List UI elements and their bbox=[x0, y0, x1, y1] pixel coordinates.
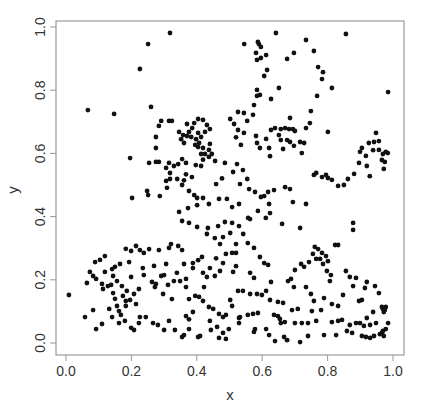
data-point bbox=[208, 142, 213, 147]
data-point bbox=[110, 315, 115, 320]
data-point bbox=[228, 117, 233, 122]
data-point bbox=[381, 310, 386, 315]
data-point bbox=[201, 196, 206, 201]
data-point bbox=[293, 268, 298, 273]
data-point bbox=[309, 292, 314, 297]
data-point bbox=[371, 148, 376, 153]
data-point bbox=[258, 255, 263, 260]
data-point bbox=[191, 261, 196, 266]
data-point bbox=[252, 276, 257, 281]
data-point bbox=[330, 86, 335, 91]
data-point bbox=[212, 274, 217, 279]
data-point bbox=[195, 203, 200, 208]
data-point bbox=[86, 108, 91, 113]
data-point bbox=[262, 261, 267, 266]
x-tick-label: 0.6 bbox=[252, 363, 272, 379]
data-point bbox=[224, 252, 229, 257]
data-point bbox=[185, 122, 190, 127]
data-point bbox=[336, 184, 341, 189]
data-point bbox=[187, 189, 192, 194]
data-point bbox=[238, 315, 243, 320]
data-point bbox=[235, 162, 240, 167]
data-point bbox=[118, 262, 123, 267]
data-point bbox=[196, 145, 201, 150]
data-point bbox=[242, 42, 247, 47]
data-point bbox=[207, 202, 212, 207]
data-point bbox=[267, 202, 272, 207]
data-point bbox=[211, 307, 216, 312]
data-point bbox=[154, 135, 159, 140]
data-point bbox=[151, 321, 156, 326]
data-point bbox=[241, 289, 246, 294]
data-point bbox=[364, 316, 369, 321]
data-point bbox=[288, 116, 293, 121]
data-point bbox=[311, 252, 316, 257]
data-point bbox=[186, 206, 191, 211]
data-point bbox=[377, 148, 382, 153]
data-point bbox=[205, 123, 210, 128]
data-point bbox=[265, 68, 270, 73]
data-point bbox=[223, 220, 228, 225]
data-point bbox=[286, 279, 291, 284]
data-point bbox=[322, 333, 327, 338]
data-point bbox=[341, 293, 346, 298]
data-point bbox=[121, 294, 126, 299]
data-point bbox=[196, 258, 201, 263]
data-point bbox=[336, 304, 341, 309]
data-point bbox=[358, 149, 363, 154]
data-point bbox=[162, 328, 167, 333]
data-point bbox=[164, 179, 169, 184]
data-point bbox=[340, 318, 345, 323]
data-point bbox=[364, 335, 369, 340]
data-point bbox=[88, 270, 93, 275]
data-point bbox=[368, 323, 373, 328]
data-point bbox=[190, 175, 195, 180]
data-point bbox=[236, 289, 241, 294]
data-point bbox=[248, 217, 253, 222]
data-point bbox=[298, 340, 303, 345]
data-point bbox=[175, 177, 180, 182]
x-axis-title: x bbox=[226, 386, 234, 403]
data-point bbox=[157, 194, 162, 199]
scatter-plot: 0.00.20.40.60.81.0 0.00.20.40.60.81.0 x … bbox=[0, 0, 424, 414]
data-point bbox=[268, 211, 273, 216]
data-point bbox=[184, 277, 189, 282]
data-point bbox=[383, 327, 388, 332]
data-point bbox=[201, 299, 206, 304]
data-point bbox=[309, 109, 314, 114]
data-point bbox=[141, 273, 146, 278]
data-point bbox=[292, 285, 297, 290]
data-point bbox=[360, 334, 365, 339]
data-point bbox=[364, 280, 369, 285]
data-point bbox=[184, 314, 189, 319]
data-point bbox=[248, 270, 253, 275]
data-point bbox=[292, 143, 297, 148]
data-point bbox=[112, 112, 117, 117]
data-point bbox=[237, 202, 242, 207]
data-point bbox=[304, 202, 309, 207]
data-point bbox=[146, 42, 151, 47]
data-point bbox=[201, 270, 206, 275]
data-point bbox=[288, 187, 293, 192]
data-point bbox=[377, 139, 382, 144]
data-point bbox=[152, 264, 157, 269]
data-point bbox=[292, 51, 297, 56]
data-point bbox=[351, 228, 356, 233]
data-point bbox=[314, 257, 319, 262]
data-point bbox=[237, 321, 242, 326]
data-point bbox=[326, 130, 331, 135]
data-point bbox=[254, 134, 259, 139]
data-point bbox=[231, 170, 236, 175]
data-point bbox=[351, 221, 356, 226]
data-point bbox=[169, 242, 174, 247]
data-point bbox=[128, 156, 133, 161]
data-point bbox=[291, 200, 296, 205]
data-point bbox=[177, 210, 182, 215]
data-point bbox=[316, 65, 321, 70]
data-point bbox=[154, 146, 159, 151]
data-point bbox=[143, 315, 148, 320]
data-point bbox=[184, 172, 189, 177]
data-point bbox=[134, 302, 139, 307]
data-point bbox=[180, 248, 185, 253]
data-point bbox=[145, 189, 150, 194]
